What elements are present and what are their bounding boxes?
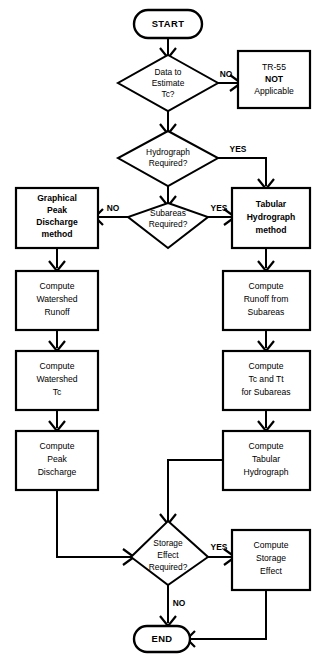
node-compute-storage-effect: Compute Storage Effect	[232, 530, 310, 590]
graphical-peak-line2: Peak	[47, 205, 67, 215]
node-graphical-peak-discharge-method: Graphical Peak Discharge method	[16, 188, 98, 248]
node-compute-watershed-runoff: Compute Watershed Runoff	[16, 271, 98, 330]
hydrograph-req-line2: Required?	[149, 158, 188, 168]
compute-storage-line1: Compute	[254, 540, 289, 550]
compute-runoff-sub-line2: Runoff from	[244, 294, 289, 304]
data-tc-line1: Data to	[154, 67, 181, 77]
edge-label-subareas-no: NO	[107, 203, 120, 213]
compute-tc-tt-line2: Tc and Tt	[248, 374, 284, 384]
subareas-req-line2: Required?	[149, 219, 188, 229]
node-tabular-hydrograph-method: Tabular Hydrograph method	[232, 188, 310, 248]
node-compute-runoff-from-subareas: Compute Runoff from Subareas	[223, 271, 310, 330]
node-tr55-not-applicable: TR-55 NOT Applicable	[238, 51, 310, 108]
edge-label-hydrograph-yes: YES	[230, 144, 247, 154]
compute-peak-discharge-line2: Peak	[47, 454, 67, 464]
node-compute-tabular-hydrograph: Compute Tabular Hydrograph	[223, 431, 310, 490]
connector-computestorage-to-end	[190, 590, 266, 639]
compute-ws-runoff-line1: Compute	[40, 281, 75, 291]
compute-ws-runoff-line2: Watershed	[36, 294, 77, 304]
compute-ws-tc-line1: Compute	[40, 361, 75, 371]
edge-label-data-tc-no: NO	[220, 69, 233, 79]
hydrograph-req-line1: Hydrograph	[146, 147, 190, 157]
compute-storage-line2: Storage	[256, 553, 286, 563]
edge-label-subareas-yes: YES	[211, 203, 228, 213]
graphical-peak-line1: Graphical	[37, 193, 77, 203]
start-label: START	[152, 18, 185, 29]
tabular-hydro-line2: Hydrograph	[247, 212, 296, 222]
subareas-req-line1: Subareas	[150, 208, 186, 218]
compute-storage-line3: Effect	[260, 566, 282, 576]
node-compute-watershed-tc: Compute Watershed Tc	[16, 351, 98, 410]
connector-computetabular-to-storage	[168, 460, 223, 521]
flowchart-canvas: START Data to Estimate Tc? NO TR-55 NOT …	[0, 0, 318, 662]
node-start: START	[134, 10, 202, 38]
node-hydrograph-required: Hydrograph Required?	[118, 131, 218, 186]
end-label: END	[152, 633, 173, 644]
compute-runoff-sub-line1: Compute	[249, 281, 284, 291]
graphical-peak-line3: Discharge	[36, 217, 78, 227]
data-tc-line2: Estimate	[152, 78, 185, 88]
connector-hydro-yes	[218, 158, 266, 186]
edge-label-storage-yes: YES	[211, 542, 228, 552]
compute-ws-tc-line2: Watershed	[36, 374, 77, 384]
compute-tabular-line1: Compute	[249, 441, 284, 451]
compute-tc-tt-line1: Compute	[249, 361, 284, 371]
flowchart-diagram: START Data to Estimate Tc? NO TR-55 NOT …	[0, 0, 318, 662]
compute-tabular-line3: Hydrograph	[244, 467, 289, 477]
compute-tc-tt-line3: for Subareas	[241, 387, 290, 397]
storage-req-line1: Storage	[153, 538, 183, 548]
node-storage-effect-required: Storage Effect Required?	[131, 521, 208, 585]
edge-label-storage-no: NO	[173, 598, 186, 608]
tr55-line2: NOT	[265, 74, 284, 84]
node-data-to-estimate-tc: Data to Estimate Tc?	[118, 55, 218, 111]
compute-peak-discharge-line3: Discharge	[38, 467, 77, 477]
tabular-hydro-line3: method	[255, 225, 286, 235]
tr55-line1: TR-55	[262, 62, 286, 72]
node-end: END	[134, 626, 190, 652]
storage-req-line3: Required?	[149, 562, 188, 572]
graphical-peak-line4: method	[41, 229, 72, 239]
data-tc-line3: Tc?	[161, 89, 174, 99]
tr55-line3: Applicable	[254, 86, 294, 96]
node-compute-peak-discharge: Compute Peak Discharge	[16, 431, 98, 490]
compute-ws-runoff-line3: Runoff	[44, 307, 70, 317]
compute-ws-tc-line3: Tc	[53, 387, 62, 397]
compute-runoff-sub-line3: Subareas	[248, 307, 285, 317]
compute-peak-discharge-line1: Compute	[40, 441, 75, 451]
storage-req-line2: Effect	[157, 550, 179, 560]
tabular-hydro-line1: Tabular	[256, 199, 287, 209]
node-compute-tc-and-tt-for-subareas: Compute Tc and Tt for Subareas	[223, 351, 310, 410]
connector-peakdischarge-to-storage	[57, 490, 131, 557]
compute-tabular-line2: Tabular	[252, 454, 280, 464]
node-subareas-required: Subareas Required?	[128, 203, 208, 248]
